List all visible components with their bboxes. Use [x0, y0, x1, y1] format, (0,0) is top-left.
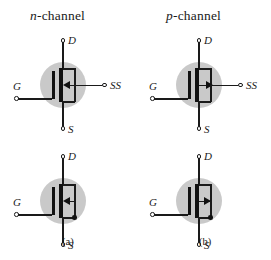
wire-drain-to-channel: [74, 68, 76, 85]
symbol-p-channel-4-terminal: D G SS S: [136, 30, 271, 148]
label-source: S: [204, 123, 210, 135]
wire-source-horizontal: [62, 101, 75, 103]
channel-plate: [59, 184, 63, 218]
gate-plate: [52, 71, 55, 99]
label-source: S: [68, 123, 74, 135]
channel-plate: [195, 68, 199, 102]
wire-gate: [154, 98, 188, 100]
wire-substrate: [199, 85, 238, 87]
wire-gate: [154, 214, 188, 216]
terminal-source[interactable]: [61, 126, 66, 131]
heading-n-prefix: n: [30, 8, 37, 23]
label-drain: D: [68, 150, 76, 162]
wire-source-vertical: [62, 101, 64, 127]
label-gate: G: [13, 196, 21, 208]
wire-drain-to-channel: [74, 184, 76, 201]
wire-source-vertical: [198, 101, 200, 127]
terminal-substrate[interactable]: [102, 83, 107, 88]
wire-gate: [18, 214, 52, 216]
label-drain: D: [68, 34, 76, 46]
wire-source-from-channel: [74, 85, 76, 102]
heading-n-rest: -channel: [37, 8, 85, 23]
wire-drain-vertical: [62, 158, 64, 184]
junction-dot-body-source: [208, 215, 213, 220]
wire-source-from-channel: [210, 85, 212, 102]
channel-plate: [59, 68, 63, 102]
gate-plate: [188, 187, 191, 215]
junction-dot-body-source: [72, 215, 77, 220]
label-substrate: SS: [110, 79, 121, 91]
gate-plate: [188, 71, 191, 99]
label-gate: G: [149, 80, 157, 92]
label-drain: D: [204, 34, 212, 46]
body-arrow-n-inward: [63, 197, 70, 205]
heading-n-channel: n-channel: [30, 8, 85, 24]
wire-drain-vertical: [198, 42, 200, 68]
wire-gate: [18, 98, 52, 100]
mosfet-symbols-figure: n-channel p-channel D G SS S D: [0, 0, 271, 260]
label-gate: G: [149, 196, 157, 208]
wire-source-horizontal: [198, 101, 211, 103]
wire-drain-vertical: [198, 158, 200, 184]
label-gate: G: [13, 80, 21, 92]
gate-plate: [52, 187, 55, 215]
body-arrow-n-inward: [63, 81, 70, 89]
heading-p-rest: -channel: [173, 8, 221, 23]
symbol-n-channel-4-terminal: D G SS S: [0, 30, 135, 148]
heading-p-channel: p-channel: [166, 8, 221, 24]
caption-a: (a): [62, 236, 74, 247]
channel-plate: [195, 184, 199, 218]
heading-p-prefix: p: [166, 8, 173, 23]
terminal-substrate[interactable]: [238, 83, 243, 88]
terminal-source[interactable]: [197, 126, 202, 131]
wire-drain-vertical: [62, 42, 64, 68]
label-substrate: SS: [246, 79, 257, 91]
label-drain: D: [204, 150, 212, 162]
caption-b: (b): [199, 236, 211, 247]
